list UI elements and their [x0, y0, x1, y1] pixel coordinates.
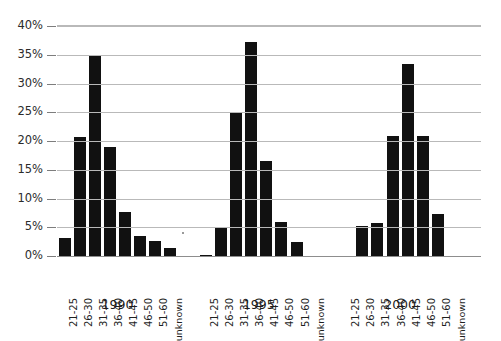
y-tick-label: 0% — [0, 250, 43, 262]
y-tick-label: 15% — [0, 164, 43, 176]
gridline — [57, 227, 481, 228]
x-axis-category-labels: 21-2526-3031-3536-4041-4546-5051-60unkno… — [57, 258, 481, 300]
bar — [149, 241, 161, 256]
x-axis-group-label: 2000 — [340, 299, 461, 312]
bar — [291, 242, 303, 256]
bar — [215, 227, 227, 256]
y-tick-mark — [47, 141, 56, 142]
bar — [59, 238, 71, 256]
y-tick-label: 35% — [0, 49, 43, 61]
bar — [104, 147, 116, 256]
y-tick-mark — [47, 170, 56, 171]
x-axis-group-label: 1990 — [57, 299, 178, 312]
gridline — [57, 141, 481, 142]
bar — [387, 136, 399, 256]
bar — [260, 161, 272, 256]
bar — [119, 212, 131, 256]
y-tick-label: 5% — [0, 221, 43, 233]
x-axis-group-labels: 199019952000 — [57, 299, 481, 319]
gridline — [57, 170, 481, 171]
bar — [245, 42, 257, 256]
bar — [417, 136, 429, 256]
gridline — [57, 84, 481, 85]
y-tick-mark — [47, 84, 56, 85]
x-axis-group-label: 1995 — [198, 299, 319, 312]
bar — [356, 226, 368, 256]
gridline — [57, 199, 481, 200]
y-tick-mark — [47, 256, 56, 257]
bar — [74, 137, 86, 256]
bar — [134, 236, 146, 256]
gridline — [57, 26, 481, 27]
y-tick-label: 30% — [0, 78, 43, 90]
bar — [230, 112, 242, 256]
y-tick-mark — [47, 112, 56, 113]
y-tick-label: 40% — [0, 20, 43, 32]
y-tick-mark — [47, 199, 56, 200]
y-tick-label: 20% — [0, 135, 43, 147]
y-tick-label: 25% — [0, 106, 43, 118]
y-tick-mark — [47, 227, 56, 228]
bar — [432, 214, 444, 256]
gridline — [57, 112, 481, 113]
bar — [164, 248, 176, 256]
y-tick-mark — [47, 55, 56, 56]
y-tick-label: 10% — [0, 193, 43, 205]
y-tick-mark — [47, 26, 56, 27]
gridline — [57, 55, 481, 56]
scan-artifact-speck — [182, 232, 184, 234]
axis-baseline — [57, 256, 481, 257]
